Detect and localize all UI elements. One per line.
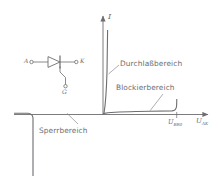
x-axis-label-sub: AK <box>202 121 208 126</box>
thyristor-symbol-graphic <box>30 56 78 88</box>
cathode-terminal-dot <box>75 60 78 63</box>
y-axis-label: I <box>108 12 111 21</box>
leader-blockierbereich <box>150 94 163 111</box>
anode-label: A <box>24 57 28 64</box>
characteristic-curve-svg <box>0 0 222 183</box>
curve-blockierbereich <box>103 99 177 114</box>
curve-sperrbereich <box>14 113 33 176</box>
leader-durchlassbereich <box>109 65 120 74</box>
anode-terminal-dot <box>30 60 33 63</box>
label-durchlassbereich: Durchlaßbereich <box>120 59 182 68</box>
gate-lead <box>60 67 66 85</box>
thyristor-characteristic-figure: Durchlaßbereich Blockierbereich Sperrber… <box>0 0 222 183</box>
label-blockierbereich: Blockierbereich <box>116 83 175 92</box>
label-sperrbereich: Sperrbereich <box>39 126 88 135</box>
x-axis-label: UAK <box>196 117 208 126</box>
cathode-label: K <box>80 57 84 64</box>
breakover-voltage-label: UBR0 <box>168 118 182 127</box>
curve-durchlassbereich <box>104 30 108 113</box>
gate-label: G <box>62 88 67 95</box>
diode-triangle <box>48 57 60 68</box>
breakover-voltage-sub: BR0 <box>173 122 182 127</box>
